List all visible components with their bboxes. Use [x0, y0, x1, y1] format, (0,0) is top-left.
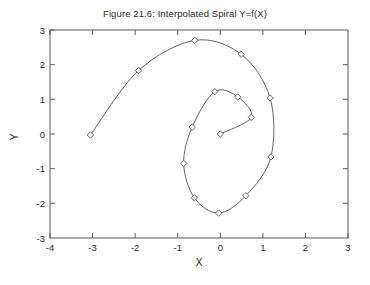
- data-point-marker: [267, 95, 273, 101]
- data-point-marker: [189, 124, 195, 130]
- data-point-marker: [180, 160, 186, 166]
- y-tick-label: -1: [37, 163, 45, 174]
- data-point-marker: [87, 132, 93, 138]
- data-point-marker: [268, 154, 274, 160]
- x-tick-label-group: -4-3-2-10123: [46, 242, 351, 253]
- x-tick-label: -3: [88, 242, 96, 253]
- y-tick-label: -2: [37, 198, 45, 209]
- y-tick-label-group: -3-2-10123: [37, 25, 45, 244]
- data-point-marker: [217, 131, 223, 137]
- y-axis-ticks: [50, 30, 348, 203]
- x-tick-label: -1: [173, 242, 181, 253]
- y-tick-label: 1: [40, 94, 45, 105]
- data-point-marker: [215, 210, 221, 216]
- y-tick-label: 0: [40, 129, 45, 140]
- y-tick-label: -3: [37, 233, 45, 244]
- spiral-marker-group: [87, 37, 274, 216]
- data-point-marker: [235, 94, 241, 100]
- x-axis-title: X: [196, 257, 203, 268]
- y-tick-label: 3: [40, 25, 45, 36]
- y-axis-title: Y: [9, 133, 20, 140]
- data-point-marker: [192, 37, 198, 43]
- spiral-plot: -4-3-2-10123 -3-2-10123 X Y: [0, 0, 370, 285]
- x-tick-label: 2: [303, 242, 308, 253]
- x-axis-ticks: [50, 30, 348, 238]
- figure-container: Figure 21.6: Interpolated Spiral Y=f(X): [0, 0, 370, 285]
- y-tick-label: 2: [40, 59, 45, 70]
- x-tick-label: 3: [345, 242, 350, 253]
- x-tick-label: 0: [218, 242, 223, 253]
- x-tick-label: -4: [46, 242, 54, 253]
- plot-frame: [50, 30, 348, 238]
- spiral-curve: [90, 40, 273, 213]
- x-tick-label: 1: [260, 242, 265, 253]
- x-tick-label: -2: [131, 242, 139, 253]
